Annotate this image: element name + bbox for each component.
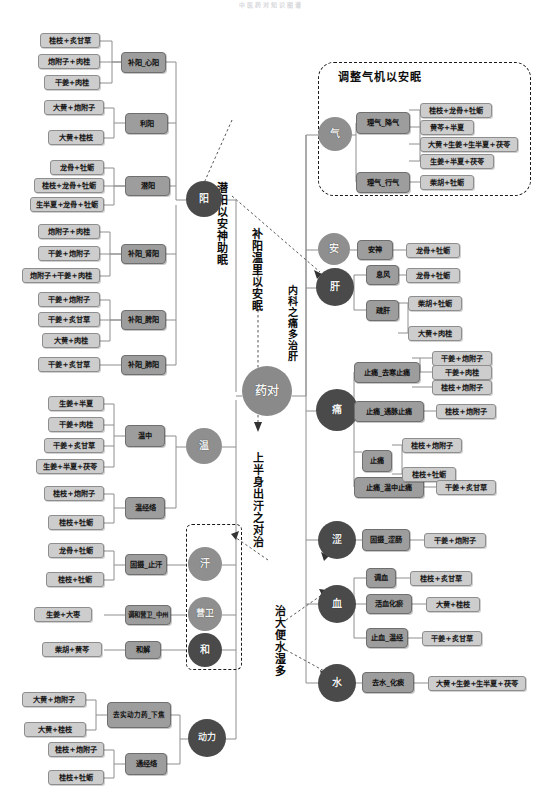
leaf-item[interactable]: 大黄+生姜+生半夏+茯苓 xyxy=(420,137,518,152)
leaf-item[interactable]: 桂枝+炮附子 xyxy=(432,380,492,395)
category-qu-shui-hua-tan[interactable]: 去水_化痰 xyxy=(362,672,414,693)
leaf-item[interactable]: 桂枝+牡蛎 xyxy=(46,572,104,587)
annotation-nei-ke-zhi-tong: 内科之痛多治肝 xyxy=(284,285,299,362)
category-shu-gan[interactable]: 疏肝 xyxy=(366,300,399,321)
category-zhi-tong-tong-mai[interactable]: 止痛_通脉止痛 xyxy=(354,401,424,422)
category-bu-yang-shen-yang[interactable]: 补阳_肾阳 xyxy=(121,244,166,264)
category-gu-she-zhi-han[interactable]: 固摄_止汗 xyxy=(125,554,167,575)
leaf-item[interactable]: 大黄+肉桂 xyxy=(408,326,462,341)
leaf-item[interactable]: 龙骨+牡蛎 xyxy=(406,243,460,258)
leaf-item[interactable]: 大黄+炮附子 xyxy=(44,100,104,115)
leaf-item[interactable]: 桂枝+炮附子 xyxy=(436,404,496,419)
leaf-item[interactable]: 干姜+炙甘草 xyxy=(436,480,496,495)
leaf-item[interactable]: 柴胡+黄芩 xyxy=(42,642,102,657)
leaf-item[interactable]: 生半夏+龙骨+牡蛎 xyxy=(30,197,104,212)
leaf-item[interactable]: 大黄+炮附子 xyxy=(22,692,86,707)
leaf-item[interactable]: 龙骨+牡蛎 xyxy=(406,268,460,283)
leaf-item[interactable]: 柴胡+牡蛎 xyxy=(420,175,474,190)
leaf-item[interactable]: 生姜+半夏 xyxy=(48,396,104,411)
leaf-item[interactable]: 黄芩+半夏 xyxy=(420,120,474,135)
hub-han[interactable]: 汗 xyxy=(188,547,222,581)
category-li-qi-xing-qi[interactable]: 理气_行气 xyxy=(356,172,410,193)
leaf-item[interactable]: 龙骨+牡蛎 xyxy=(48,543,104,558)
hub-he[interactable]: 和 xyxy=(188,633,222,667)
category-wen-jing-luo[interactable]: 温经络 xyxy=(125,497,165,519)
category-tiao-xue[interactable]: 调血 xyxy=(366,568,396,588)
hub-dongli[interactable]: 动力 xyxy=(188,719,226,757)
leaf-item[interactable]: 大黄+肉桂 xyxy=(42,333,100,348)
category-tong-jing-luo[interactable]: 通经络 xyxy=(125,753,167,775)
hub-an[interactable]: 安 xyxy=(318,233,350,265)
root-node[interactable]: 药对 xyxy=(242,366,292,416)
leaf-item[interactable]: 生姜+半夏+茯苓 xyxy=(36,459,104,474)
leaf-item[interactable]: 桂枝+龙骨+牡蛎 xyxy=(34,178,104,193)
leaf-item[interactable]: 干姜+肉桂 xyxy=(48,417,104,432)
hub-xue[interactable]: 血 xyxy=(318,585,356,623)
hub-tong[interactable]: 痛 xyxy=(316,389,358,431)
category-he-jie[interactable]: 和解 xyxy=(125,641,161,659)
category-zhi-tong-qu-han[interactable]: 止痛_去寒止痛 xyxy=(354,362,420,383)
category-qian-yang[interactable]: 潜阳 xyxy=(125,176,170,196)
group-title-qi: 调整气机以安眠 xyxy=(338,68,422,84)
leaf-item[interactable]: 干姜+炙甘草 xyxy=(38,357,100,372)
annotation-shang-ban-shen-han: 上半身出汗之对治 xyxy=(249,452,265,548)
category-zhi-xue-wen-jing[interactable]: 止血_温经 xyxy=(366,628,408,648)
category-wen-zhong[interactable]: 温中 xyxy=(125,425,165,447)
category-bu-yang-xin-yang[interactable]: 补阳_心阳 xyxy=(121,52,166,73)
category-xi-feng[interactable]: 息风 xyxy=(366,265,399,285)
diagram-canvas: 中医药对知识图谱 xyxy=(0,0,541,787)
leaf-item[interactable]: 桂枝+牡蛎 xyxy=(48,515,104,530)
hub-se[interactable]: 涩 xyxy=(318,521,356,559)
category-zhi-tong[interactable]: 止痛 xyxy=(362,450,392,472)
category-li-yang[interactable]: 利阳 xyxy=(125,113,168,134)
leaf-item[interactable]: 桂枝+龙骨+牡蛎 xyxy=(420,103,492,118)
hub-shui[interactable]: 水 xyxy=(318,664,356,702)
annotation-zhi-da-bian: 治大便水湿多 xyxy=(271,605,287,677)
leaf-item[interactable]: 桂枝+炙甘草 xyxy=(40,33,100,48)
leaf-item[interactable]: 桂枝+炮附子 xyxy=(48,742,104,757)
leaf-item[interactable]: 生姜+半夏+茯苓 xyxy=(420,154,494,169)
leaf-item[interactable]: 炮附子+肉桂 xyxy=(38,224,100,239)
page-title: 中医药对知识图谱 xyxy=(0,0,541,9)
leaf-item[interactable]: 干姜+炮附子 xyxy=(38,246,100,261)
hub-qi[interactable]: 气 xyxy=(318,117,352,151)
leaf-item[interactable]: 大黄+桂枝 xyxy=(24,722,86,737)
leaf-item[interactable]: 桂枝+炮附子 xyxy=(402,438,462,453)
leaf-item[interactable]: 桂枝+炮附子 xyxy=(44,486,104,501)
annotation-bu-yang-wen-li: 补阳温里以安眠 xyxy=(248,228,264,312)
leaf-item[interactable]: 生姜+大枣 xyxy=(34,607,92,622)
leaf-item[interactable]: 桂枝+炙甘草 xyxy=(410,571,472,586)
leaf-item[interactable]: 柴胡+牡蛎 xyxy=(408,296,462,311)
category-gu-she-se-chang[interactable]: 固摄_涩肠 xyxy=(362,529,410,551)
category-qu-shi-dong-li-yao[interactable]: 去实动力药_下焦 xyxy=(107,702,171,728)
leaf-item[interactable]: 干姜+炙甘草 xyxy=(44,438,104,453)
leaf-item[interactable]: 炮附子+干姜+肉桂 xyxy=(22,268,100,283)
leaf-item[interactable]: 大黄+桂枝 xyxy=(426,597,480,612)
leaf-item[interactable]: 大黄+生姜+生半夏+茯苓 xyxy=(428,676,526,691)
leaf-item[interactable]: 干姜+炮附子 xyxy=(424,533,486,548)
category-tiao-he-ying-wei[interactable]: 调和营卫_中州 xyxy=(125,605,171,625)
hub-wen[interactable]: 温 xyxy=(186,428,222,464)
hub-yang[interactable]: 阳 xyxy=(186,181,222,217)
leaf-item[interactable]: 干姜+炮附子 xyxy=(38,292,100,307)
leaf-item[interactable]: 炮附子+肉桂 xyxy=(38,54,100,69)
category-bu-yang-pi-yang[interactable]: 补阳_脾阳 xyxy=(121,310,166,330)
category-bu-yang-fei-yang[interactable]: 补阳_肺阳 xyxy=(121,355,166,375)
leaf-item[interactable]: 干姜+炙甘草 xyxy=(38,312,100,327)
category-li-qi-jiang-qi[interactable]: 理气_降气 xyxy=(356,112,410,134)
category-huo-xue-hua-yu[interactable]: 活血化瘀 xyxy=(366,594,412,614)
hub-yingwei[interactable]: 营卫 xyxy=(188,597,222,631)
leaf-item[interactable]: 龙骨+牡蛎 xyxy=(50,160,104,175)
category-an-shen[interactable]: 安神 xyxy=(357,240,393,260)
leaf-item[interactable]: 干姜+炙甘草 xyxy=(422,631,482,646)
leaf-item[interactable]: 大黄+桂枝 xyxy=(48,130,104,145)
leaf-item[interactable]: 桂枝+牡蛎 xyxy=(48,770,104,785)
hub-gan[interactable]: 肝 xyxy=(316,268,354,306)
leaf-item[interactable]: 干姜+肉桂 xyxy=(432,365,492,380)
leaf-item[interactable]: 干姜+炮附子 xyxy=(432,351,492,366)
leaf-item[interactable]: 干姜+肉桂 xyxy=(44,75,100,90)
